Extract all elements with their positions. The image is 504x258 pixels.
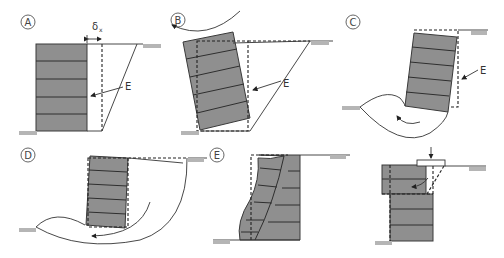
panel-label-b: B xyxy=(171,13,185,27)
panel-label-c: C xyxy=(346,15,360,29)
ground-hatch xyxy=(375,241,392,245)
ground-hatch xyxy=(471,31,487,35)
svg-text:x: x xyxy=(99,26,103,33)
panel-f xyxy=(375,147,486,245)
svg-text:B: B xyxy=(175,15,182,26)
panel-e: E xyxy=(210,148,350,244)
panel-label-e: E xyxy=(210,148,224,162)
svg-text:A: A xyxy=(25,17,32,28)
ground-hatch xyxy=(19,228,36,232)
panel-label-d: D xyxy=(21,148,35,162)
ground-hatch xyxy=(143,44,161,48)
wall-f xyxy=(390,194,433,241)
panel-b: B E xyxy=(171,11,333,135)
panel-a: A δ x E xyxy=(19,15,161,135)
ground-hatch xyxy=(19,131,37,135)
slip-arrow-icon xyxy=(397,116,420,124)
svg-text:E: E xyxy=(283,78,289,89)
ground-hatch xyxy=(188,158,204,162)
delta-symbol: δ xyxy=(92,21,98,32)
svg-text:C: C xyxy=(350,17,357,28)
ground-hatch xyxy=(213,240,230,244)
wall-a xyxy=(36,44,87,131)
ground-hatch xyxy=(311,41,329,45)
wall-e xyxy=(239,155,300,240)
panel-c: C E xyxy=(342,15,488,138)
ground-hatch xyxy=(469,167,486,171)
failure-modes-diagram: A δ x E B xyxy=(0,0,504,258)
wall-d xyxy=(86,156,128,228)
ground-hatch xyxy=(181,131,199,135)
svg-text:D: D xyxy=(24,150,32,161)
ground-hatch xyxy=(330,155,346,159)
svg-text:E: E xyxy=(125,81,131,92)
wall-c xyxy=(405,33,457,112)
svg-text:E: E xyxy=(214,150,220,161)
earth-pressure-arrow-icon xyxy=(462,70,478,79)
ground-hatch xyxy=(342,106,360,110)
wall-b xyxy=(183,32,250,130)
surcharge-slab xyxy=(417,160,445,166)
panel-d: D xyxy=(19,148,207,244)
svg-text:E: E xyxy=(480,65,486,76)
panel-label-a: A xyxy=(21,15,35,29)
earth-pressure-arrow-icon xyxy=(253,81,281,90)
